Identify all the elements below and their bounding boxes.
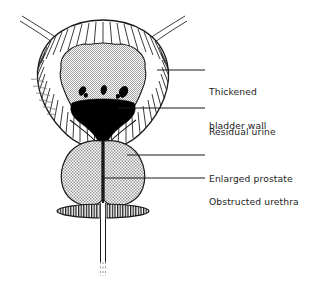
label-line-1: Thickened bbox=[209, 86, 266, 97]
bladder-obstruction-figure: Thickened bladder wall Residual urine En… bbox=[0, 0, 315, 285]
label-line-1: Residual urine bbox=[209, 126, 276, 137]
label-obstructed-urethra: Obstructed urethra bbox=[209, 173, 299, 230]
label-line-1: Obstructed urethra bbox=[209, 196, 299, 207]
